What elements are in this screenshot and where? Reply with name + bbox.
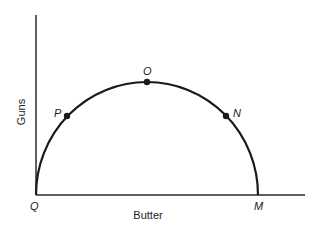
point-o-marker <box>144 79 150 85</box>
y-axis-label: Guns <box>15 98 27 125</box>
point-p-marker <box>64 113 70 119</box>
ppf-diagram: Q P O N M Butter Guns <box>0 0 325 234</box>
point-m-label: M <box>254 200 264 212</box>
point-n-label: N <box>233 107 241 119</box>
point-q-label: Q <box>30 200 39 212</box>
x-axis-label: Butter <box>133 209 163 221</box>
point-p-label: P <box>54 107 62 119</box>
point-o-label: O <box>143 65 152 77</box>
point-n-marker <box>223 113 229 119</box>
ppf-curve <box>36 82 258 195</box>
